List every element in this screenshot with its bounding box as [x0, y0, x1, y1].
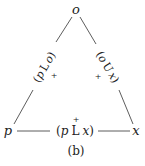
edge-left-upper	[56, 17, 72, 42]
bottom-plus-mark: +	[73, 115, 80, 124]
figure-caption: (b)	[67, 144, 84, 158]
triangle-diagram: o p x (pLo) + (oUx) + + (pLx) (b)	[0, 0, 145, 166]
edge-left-lower	[14, 90, 33, 124]
edge-label-bottom: (pLx)	[56, 124, 94, 138]
edge-right-lower	[119, 90, 133, 124]
vertex-x: x	[132, 123, 140, 138]
left-plus-mark: +	[51, 71, 58, 80]
edge-right-upper	[80, 17, 96, 44]
vertex-p: p	[4, 123, 13, 138]
right-plus-mark: +	[95, 72, 102, 81]
vertex-o: o	[72, 2, 80, 17]
